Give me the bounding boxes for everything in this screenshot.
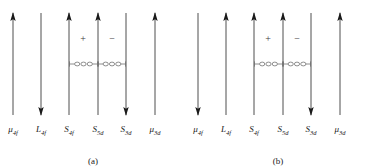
label-S-3d: S3d	[295, 124, 327, 136]
label-S-4f: S4f	[53, 124, 85, 136]
plus-sign: +	[261, 33, 275, 44]
label-subscript: 4f	[254, 129, 259, 136]
vector-L-4f	[219, 12, 233, 116]
coupling-5d-3d	[98, 60, 126, 69]
label-subscript: 4f	[198, 129, 203, 136]
figure-container: μ4fL4fS4fS5dS3dμ3d+−(a)μ4fL4fS4fS5dS3dμ3…	[0, 0, 371, 167]
minus-sign: −	[290, 33, 304, 44]
label-subscript: 4f	[69, 129, 74, 136]
label-subscript: 3d	[339, 129, 346, 136]
coupling-4f-5d	[69, 60, 98, 69]
plus-sign: +	[76, 33, 90, 44]
vector-mu-4f	[6, 12, 20, 116]
panel-b: μ4fL4fS4fS5dS3dμ3d+−(b)	[185, 0, 371, 167]
vector-L-4f	[34, 12, 48, 116]
coupling-5d-3d	[283, 60, 311, 69]
label-subscript: 3d	[125, 129, 132, 136]
minus-sign: −	[105, 33, 119, 44]
label-mu-3d: μ3d	[324, 124, 356, 136]
label-subscript: 5d	[97, 129, 104, 136]
vector-mu-3d	[333, 12, 347, 116]
label-S-4f: S4f	[238, 124, 270, 136]
panel-a: μ4fL4fS4fS5dS3dμ3d+−(a)	[0, 0, 186, 167]
label-S-3d: S3d	[110, 124, 142, 136]
label-subscript: 4f	[226, 129, 231, 136]
panel-caption-a: (a)	[0, 156, 186, 166]
panel-caption-b: (b)	[185, 156, 371, 166]
vector-mu-3d	[148, 12, 162, 116]
label-subscript: 3d	[310, 129, 317, 136]
label-subscript: 3d	[154, 129, 161, 136]
vector-mu-4f	[191, 12, 205, 116]
label-mu-3d: μ3d	[139, 124, 171, 136]
label-subscript: 4f	[41, 129, 46, 136]
label-subscript: 4f	[13, 129, 18, 136]
label-subscript: 5d	[282, 129, 289, 136]
coupling-4f-5d	[254, 60, 283, 69]
